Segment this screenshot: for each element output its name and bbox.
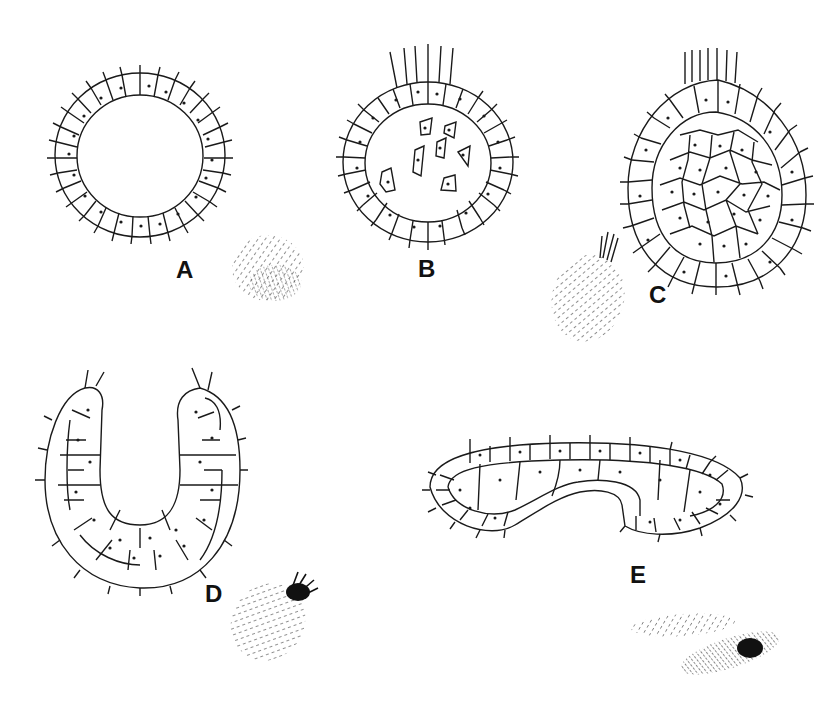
- figure-canvas: [0, 0, 840, 706]
- panel-c-solid-larva: [620, 48, 814, 295]
- panel-a-whole-body-view: [232, 235, 304, 301]
- panel-label-b: B: [418, 257, 435, 281]
- panel-label-c: C: [649, 283, 666, 307]
- panel-d-cup-larva: [35, 368, 248, 596]
- panel-label-e: E: [630, 563, 646, 587]
- panel-e-elongated-larva: [422, 435, 753, 542]
- panel-b-blastula-ingression: [336, 44, 519, 250]
- panel-e-whole-body-views: [630, 610, 784, 683]
- panel-c-whole-body-view: [542, 232, 634, 350]
- panel-a-blastula: [47, 65, 233, 244]
- panel-label-d: D: [205, 582, 222, 606]
- panel-d-whole-body-view: [216, 569, 321, 676]
- panel-label-a: A: [176, 258, 193, 282]
